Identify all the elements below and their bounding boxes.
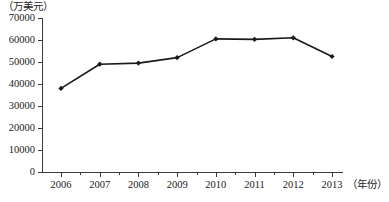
x-tick-label: 2008 <box>128 179 149 191</box>
x-tick <box>177 172 178 177</box>
x-tick-minor <box>119 172 120 175</box>
x-axis-line <box>42 172 343 173</box>
data-point-marker <box>291 35 296 40</box>
x-tick-minor <box>235 172 236 175</box>
x-tick <box>293 172 294 177</box>
series-polyline <box>61 38 332 89</box>
x-tick-minor <box>197 172 198 175</box>
x-tick-label: 2006 <box>51 179 72 191</box>
y-tick-label: 50000 <box>1 56 35 67</box>
x-tick-label: 2007 <box>89 179 110 191</box>
x-tick <box>61 172 62 177</box>
x-tick <box>255 172 256 177</box>
y-tick-label: 0 <box>1 166 35 177</box>
y-tick-label: 60000 <box>1 34 35 45</box>
x-tick-label: 2013 <box>322 179 343 191</box>
x-tick <box>100 172 101 177</box>
data-point-marker <box>252 37 257 42</box>
figure-caption <box>0 196 389 202</box>
x-tick <box>332 172 333 177</box>
x-tick-label: 2010 <box>205 179 226 191</box>
y-tick-label: 10000 <box>1 144 35 155</box>
y-tick-label: 40000 <box>1 78 35 89</box>
series-markers <box>58 35 334 91</box>
x-tick-label: 2012 <box>283 179 304 191</box>
x-axis-unit-label: （年份） <box>347 179 387 191</box>
data-series-line <box>42 18 343 172</box>
y-tick-label: 20000 <box>1 122 35 133</box>
x-tick-minor <box>274 172 275 175</box>
data-point-marker <box>329 54 334 59</box>
x-tick-label: 2009 <box>167 179 188 191</box>
x-tick <box>138 172 139 177</box>
x-tick <box>216 172 217 177</box>
y-tick-label: 70000 <box>1 12 35 23</box>
x-tick-minor <box>313 172 314 175</box>
y-tick-label: 30000 <box>1 100 35 111</box>
plot-area: 010000200003000040000500006000070000 200… <box>42 18 343 172</box>
chart-figure: （万美元） 0100002000030000400005000060000700… <box>0 0 389 202</box>
x-tick-label: 2011 <box>244 179 265 191</box>
data-point-marker <box>175 55 180 60</box>
x-tick-minor <box>80 172 81 175</box>
data-point-marker <box>213 36 218 41</box>
data-point-marker <box>136 61 141 66</box>
x-tick-minor <box>158 172 159 175</box>
